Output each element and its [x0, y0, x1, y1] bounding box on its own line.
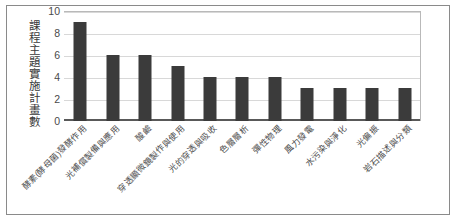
x-label-slot: 水污染與淨化 — [324, 124, 356, 212]
bar-slot — [161, 11, 193, 121]
x-axis-tick-labels: 酵素(酵母菌)發酵作用光補償製備與應用酸鹼穿透顯微鏡製作與使用光的穿透與吸收色層… — [64, 124, 421, 212]
bar[interactable] — [171, 66, 184, 121]
y-tick-label: 0 — [54, 115, 60, 127]
y-axis-title: 課程主題實施計畫數 — [18, 14, 40, 134]
y-tick-label: 2 — [54, 93, 60, 105]
x-tick-label-text: 光偏振 — [355, 124, 380, 149]
bar[interactable] — [74, 22, 87, 121]
y-axis-ticks: 0246810 — [40, 11, 60, 121]
x-label-slot: 彈性物理 — [259, 124, 291, 212]
y-tick-label: 10 — [48, 5, 60, 17]
y-tick-label: 6 — [54, 49, 60, 61]
x-label-slot: 風力發電 — [291, 124, 323, 212]
bar[interactable] — [398, 88, 411, 121]
figure-container: 課程主題實施計畫數 0246810 酵素(酵母菌)發酵作用光補償製備與應用酸鹼穿… — [0, 0, 460, 224]
y-tick-label: 8 — [54, 27, 60, 39]
bar-slot — [64, 11, 96, 121]
x-tick-label-text: 酸鹼 — [134, 124, 153, 143]
x-label-slot: 色層層析 — [226, 124, 258, 212]
x-label-slot: 光的穿透與吸收 — [194, 124, 226, 212]
x-label-slot: 光補償製備與應用 — [96, 124, 128, 212]
y-tick-label: 4 — [54, 71, 60, 83]
x-label-slot: 岩石描述與分類 — [389, 124, 421, 212]
